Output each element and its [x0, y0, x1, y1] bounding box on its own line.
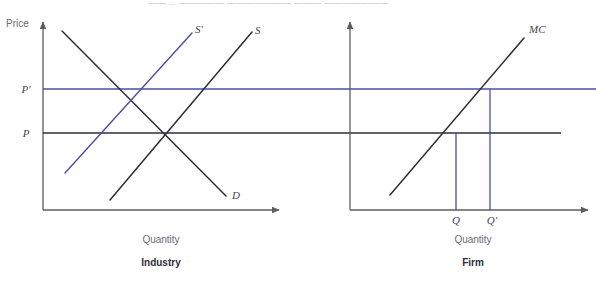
curve-label-demand: D: [231, 189, 240, 201]
demand-curve: [62, 31, 226, 196]
firm-panel-caption: Firm: [462, 257, 484, 268]
marginal-cost-curve: [390, 38, 524, 195]
supply-curve: [110, 32, 252, 200]
industry-y-axis-label: Price: [6, 18, 29, 29]
panel-industry: Price P' P S' S D Quantity Industry: [6, 18, 596, 268]
industry-panel-caption: Industry: [141, 257, 181, 268]
economics-diagram: Price P' P S' S D Quantity Industry MC Q…: [0, 0, 596, 282]
price-label-p-prime: P': [20, 83, 31, 95]
industry-x-axis-label: Quantity: [142, 234, 179, 245]
figure-root: —— ... ————— ——————— ——— ——————— Price P…: [0, 0, 596, 282]
curve-label-marginal-cost: MC: [528, 23, 546, 35]
curve-label-supply: S: [255, 24, 261, 36]
curve-label-supply-shifted: S': [195, 23, 204, 35]
panel-firm: MC Q Q' Quantity Firm: [350, 22, 588, 268]
firm-x-axis-label: Quantity: [454, 234, 491, 245]
quantity-label-q-prime: Q': [487, 214, 498, 226]
price-label-p: P: [22, 127, 30, 139]
quantity-label-q: Q: [452, 214, 460, 226]
